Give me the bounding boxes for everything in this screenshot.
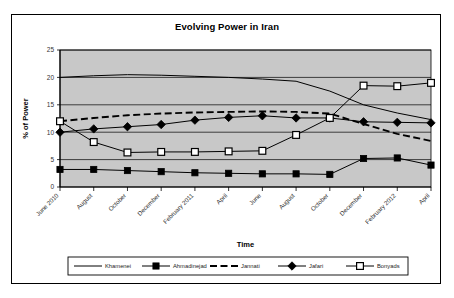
chart-plot-area: 0510152025June 2010AugustOctoberDecember… [12, 15, 442, 285]
datapoint-bonyads-4 [192, 149, 199, 156]
ytick-label-0: 0 [50, 183, 54, 190]
legend-label-jafari: Jafari [309, 263, 323, 269]
legend-label-jannati: Jannati [241, 263, 260, 269]
x-axis-title: Time [237, 240, 254, 249]
ytick-label-5: 5 [50, 156, 54, 163]
chart-container: Evolving Power in Iran 0510152025June 20… [11, 14, 441, 284]
datapoint-ahmadinejad-1 [91, 166, 97, 172]
legend-marker-bonyads [357, 263, 364, 270]
datapoint-ahmadinejad-8 [327, 171, 333, 177]
datapoint-bonyads-5 [225, 148, 232, 155]
xtick-label-5: April [215, 192, 229, 206]
ytick-label-10: 10 [47, 129, 55, 136]
legend-label-ahmadinejad: Ahmadinejad [173, 263, 207, 269]
datapoint-ahmadinejad-2 [124, 167, 130, 173]
chart-svg: 0510152025June 2010AugustOctoberDecember… [12, 15, 442, 285]
xtick-label-7: August [277, 192, 296, 211]
xtick-label-10: February 2012 [364, 191, 398, 225]
xtick-label-2: October [107, 192, 128, 213]
legend-marker-ahmadinejad [153, 263, 159, 269]
datapoint-bonyads-0 [57, 118, 64, 125]
datapoint-bonyads-6 [259, 147, 266, 154]
datapoint-ahmadinejad-0 [57, 166, 63, 172]
xtick-label-1: August [75, 192, 94, 211]
datapoint-ahmadinejad-11 [428, 162, 434, 168]
plot-background [60, 50, 431, 187]
legend-label-bonyads: Bonyads [377, 263, 400, 269]
y-axis-title: % of Power [21, 98, 30, 139]
xtick-label-0: June 2010 [34, 191, 60, 217]
xtick-label-9: December [338, 192, 363, 217]
datapoint-bonyads-8 [326, 115, 333, 122]
xtick-label-8: October [309, 192, 330, 213]
ytick-label-15: 15 [47, 101, 55, 108]
datapoint-ahmadinejad-6 [259, 171, 265, 177]
xtick-label-11: April [417, 192, 431, 206]
datapoint-bonyads-7 [293, 132, 300, 139]
datapoint-bonyads-3 [158, 149, 165, 156]
datapoint-ahmadinejad-10 [394, 155, 400, 161]
datapoint-bonyads-11 [428, 79, 435, 86]
datapoint-ahmadinejad-4 [192, 170, 198, 176]
datapoint-bonyads-9 [360, 82, 367, 89]
datapoint-bonyads-2 [124, 149, 131, 156]
datapoint-bonyads-10 [394, 83, 401, 90]
datapoint-bonyads-1 [90, 139, 97, 146]
datapoint-ahmadinejad-9 [360, 155, 366, 161]
datapoint-ahmadinejad-3 [158, 169, 164, 175]
xtick-label-4: February 2011 [162, 191, 195, 224]
xtick-label-6: June [248, 191, 263, 206]
datapoint-ahmadinejad-7 [293, 171, 299, 177]
ytick-label-20: 20 [47, 74, 55, 81]
legend-label-khamenei: Khamenei [105, 263, 131, 269]
datapoint-ahmadinejad-5 [226, 170, 232, 176]
xtick-label-3: December [136, 192, 161, 217]
ytick-label-25: 25 [47, 46, 55, 53]
